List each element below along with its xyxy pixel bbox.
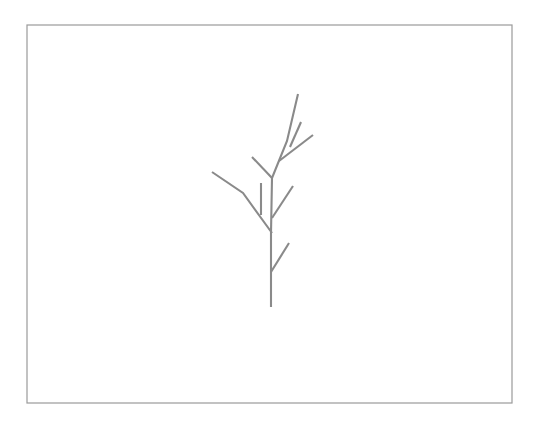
figure-canvas	[0, 0, 538, 421]
branch-figure	[0, 0, 538, 421]
frame-border	[27, 25, 512, 403]
